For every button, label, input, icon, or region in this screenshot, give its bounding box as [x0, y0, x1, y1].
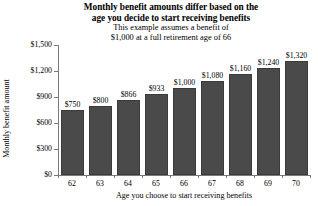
y-axis-title-text: Monthly benefit amount: [2, 79, 11, 158]
x-tick-mark: [310, 175, 311, 178]
x-axis-label-68: 68: [226, 179, 254, 188]
bar-column: $1,320: [285, 45, 308, 175]
y-tick-mark: [54, 71, 58, 72]
benefit-bar-chart: Monthly benefit amounts differ based on …: [0, 0, 318, 206]
bar-column: $866: [117, 45, 140, 175]
y-tick-mark: [54, 97, 58, 98]
chart-title-block: Monthly benefit amounts differ based on …: [40, 2, 302, 42]
x-axis-line: [58, 175, 310, 176]
bar-column: $750: [61, 45, 84, 175]
x-axis-label-66: 66: [170, 179, 198, 188]
chart-title-line-2: age you decide to start receiving benefi…: [40, 13, 302, 24]
x-axis-label-65: 65: [142, 179, 170, 188]
x-axis-label-67: 67: [198, 179, 226, 188]
x-tick-mark: [58, 175, 59, 178]
y-tick-mark: [54, 149, 58, 150]
y-tick-mark: [54, 123, 58, 124]
bar: [173, 88, 196, 175]
x-tick-mark: [114, 175, 115, 178]
bar-column: $1,240: [257, 45, 280, 175]
x-tick-mark: [254, 175, 255, 178]
x-axis-label-62: 62: [58, 179, 86, 188]
x-tick-mark: [198, 175, 199, 178]
y-tick-label: $300: [36, 144, 52, 153]
y-tick-label: $900: [36, 92, 52, 101]
x-tick-mark: [86, 175, 87, 178]
x-tick-mark: [142, 175, 143, 178]
y-tick-label: $1,200: [31, 66, 52, 75]
x-tick-mark: [170, 175, 171, 178]
bar: [89, 106, 112, 175]
y-tick-label: $0: [44, 170, 52, 179]
chart-subtitle-line-2: $1,000 at a full retirement age of 66: [40, 33, 302, 43]
x-axis-label-69: 69: [254, 179, 282, 188]
x-tick-mark: [282, 175, 283, 178]
bar-column: $933: [145, 45, 168, 175]
plot-area: $0$300$600$900$1,200$1,500 $750$800$866$…: [58, 45, 310, 175]
y-axis-title: Monthly benefit amount: [0, 58, 13, 178]
bar: [201, 81, 224, 175]
bar: [61, 110, 84, 175]
bar-value-label: $1,320: [276, 51, 318, 60]
chart-title-line-1: Monthly benefit amounts differ based on …: [40, 2, 302, 13]
x-axis-title: Age you choose to start receiving benefi…: [58, 191, 310, 200]
bar-column: $1,000: [173, 45, 196, 175]
bar-column: $800: [89, 45, 112, 175]
y-tick-label: $600: [36, 118, 52, 127]
x-tick-mark: [226, 175, 227, 178]
bar: [285, 61, 308, 175]
bar: [229, 74, 252, 175]
y-tick-label: $1,500: [31, 40, 52, 49]
bar: [257, 68, 280, 175]
x-axis-label-64: 64: [114, 179, 142, 188]
bar: [117, 100, 140, 175]
bar: [145, 94, 168, 175]
chart-subtitle-line-1: This example assumes a benefit of: [40, 23, 302, 33]
x-axis-label-63: 63: [86, 179, 114, 188]
y-tick-mark: [54, 45, 58, 46]
x-axis-label-70: 70: [282, 179, 310, 188]
